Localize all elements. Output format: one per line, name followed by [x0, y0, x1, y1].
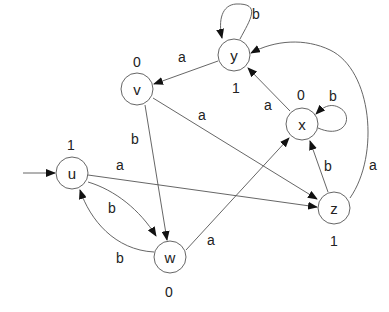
edge-label-v-z: a	[198, 107, 206, 123]
state-x: x	[286, 108, 318, 140]
output-x: 0	[297, 87, 305, 103]
output-u: 1	[67, 137, 75, 153]
edge-x-x-b	[316, 106, 347, 132]
state-label-u: u	[68, 165, 76, 182]
edge-v-w-b	[145, 105, 167, 240]
state-v: v	[121, 73, 153, 105]
edge-y-v-a	[154, 61, 218, 84]
edge-w-x-a	[186, 138, 289, 250]
edge-label-y-v: a	[178, 49, 186, 65]
edge-label-z-y: a	[369, 157, 377, 173]
state-z: z	[318, 192, 350, 224]
edge-label-v-w: b	[131, 131, 139, 147]
state-label-v: v	[133, 81, 141, 98]
output-v: 0	[133, 54, 141, 70]
output-y: 1	[232, 80, 240, 96]
state-diagram: b a b a b a b a a b b a y 1 v 0 x 0	[0, 0, 389, 312]
edge-y-y-b	[221, 4, 252, 39]
state-w: w	[154, 241, 186, 273]
state-y: y	[218, 39, 250, 71]
edge-w-u-b	[80, 190, 154, 252]
edge-label-x-x: b	[329, 88, 337, 104]
state-label-x: x	[298, 116, 306, 133]
state-label-z: z	[330, 200, 338, 217]
edge-label-w-u: b	[116, 250, 124, 266]
state-label-y: y	[230, 47, 238, 64]
output-z: 1	[330, 233, 338, 249]
state-label-w: w	[164, 249, 176, 266]
state-u: u	[56, 157, 88, 189]
edge-u-z-a	[88, 175, 317, 207]
edge-label-u-z: a	[116, 157, 124, 173]
edge-label-x-y: a	[264, 97, 272, 113]
edge-label-w-x: a	[207, 232, 215, 248]
edge-label-y-y: b	[252, 6, 260, 22]
edge-u-w-b	[88, 182, 156, 236]
edge-label-z-x: b	[324, 158, 332, 174]
output-w: 0	[165, 284, 173, 300]
edge-label-u-w: b	[108, 200, 116, 216]
